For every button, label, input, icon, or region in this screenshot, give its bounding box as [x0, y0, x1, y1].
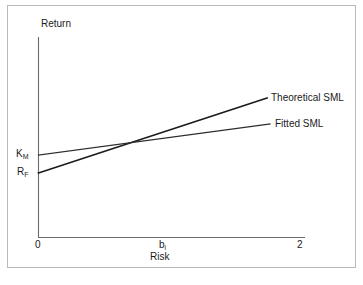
y-tick-km-subscript: M [23, 153, 29, 160]
y-axis-title: Return [41, 19, 71, 29]
x-tick-0-text: 0 [35, 239, 41, 250]
chart-plot-area [0, 0, 363, 285]
x-tick-bi-text: b [159, 239, 165, 250]
y-tick-rf-subscript: F [24, 171, 28, 178]
fitted-sml-line [39, 124, 271, 155]
legend-label-theoretical-sml: Theoretical SML [271, 93, 344, 103]
x-tick-label-bi: bi [159, 240, 166, 250]
x-tick-2-text: 2 [297, 239, 303, 250]
theoretical-sml-line [39, 98, 268, 173]
x-tick-label-0: 0 [35, 240, 41, 250]
x-tick-label-2: 2 [297, 240, 303, 250]
y-tick-km-text: K [16, 148, 23, 159]
x-axis-title: Risk [150, 252, 169, 262]
y-tick-label-rf: RF [17, 167, 29, 177]
y-tick-label-km: KM [16, 149, 29, 159]
legend-label-fitted-sml: Fitted SML [275, 119, 323, 129]
x-tick-bi-subscript: i [165, 244, 167, 251]
